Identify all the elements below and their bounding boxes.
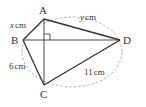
- side-cd: [44, 40, 120, 85]
- diagram-canvas: A B C D xcm ycm 6cm 11cm: [0, 0, 146, 107]
- side-ab: [23, 19, 44, 40]
- label-ab-length: xcm: [9, 20, 26, 30]
- label-b: B: [11, 34, 18, 46]
- side-bc: [23, 40, 44, 85]
- label-bc-length: 6cm: [9, 61, 26, 71]
- label-cd-length: 11cm: [84, 67, 105, 77]
- label-c: C: [40, 88, 47, 100]
- quadrilateral-diagram: A B C D xcm ycm 6cm 11cm: [0, 0, 146, 107]
- label-a: A: [39, 4, 47, 16]
- side-ad: [44, 19, 120, 40]
- label-d: D: [123, 34, 131, 46]
- circumcircle: [22, 17, 122, 87]
- label-ad-length: ycm: [79, 12, 96, 22]
- right-angle-mark: [44, 34, 50, 40]
